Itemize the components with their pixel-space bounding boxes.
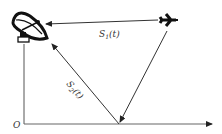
reflected-path-label: S2(t) <box>64 79 86 102</box>
axes <box>24 44 212 124</box>
multipath-diagram: S1(t) S2(t) O <box>0 0 222 134</box>
radar-dish-icon <box>13 13 47 42</box>
reflected-path-line <box>52 44 119 124</box>
incident-path-line <box>120 31 167 122</box>
airplane-icon <box>160 14 178 26</box>
direct-path-line <box>46 20 158 24</box>
direct-path-label: S1(t) <box>99 29 120 40</box>
origin-label: O <box>13 120 21 130</box>
